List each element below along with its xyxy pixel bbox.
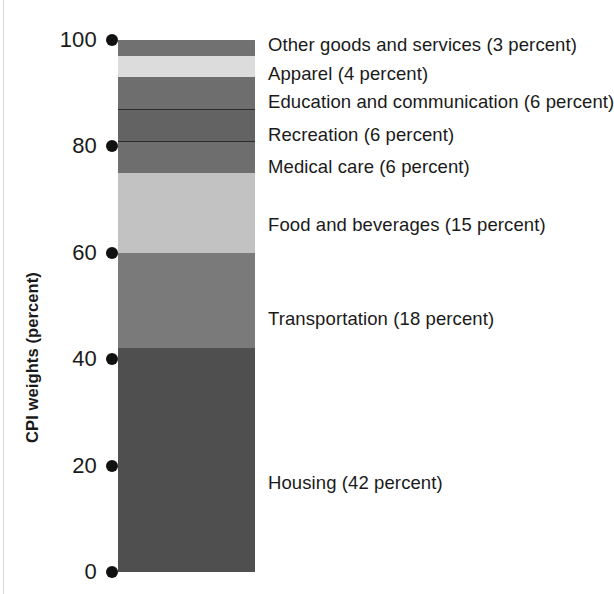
bar-segment-medical-care (118, 141, 255, 173)
y-axis-tick-dot-marker (106, 247, 118, 259)
bar-segment-recreation (118, 109, 255, 141)
y-axis-tick-dot-marker (106, 34, 118, 46)
stacked-bar (118, 40, 255, 572)
category-label: Medical care (6 percent) (268, 158, 470, 177)
y-axis-tick-label: 20 (72, 455, 97, 477)
bar-segment-other-goods-and-services (118, 40, 255, 56)
category-label: Housing (42 percent) (268, 474, 443, 493)
bar-segment-apparel (118, 56, 255, 77)
category-label: Transportation (18 percent) (268, 310, 494, 329)
bar-segment-housing (118, 348, 255, 571)
y-axis-tick-label: 60 (72, 242, 97, 264)
bar-segment-food-and-beverages (118, 173, 255, 253)
page-edge-rule (3, 0, 4, 594)
y-axis-tick-dot-marker (106, 140, 118, 152)
y-axis-tick-label: 80 (72, 135, 97, 157)
bar-segment-education-and-communication (118, 77, 255, 109)
y-axis-title: CPI weights (percent) (23, 238, 42, 478)
bar-segment-transportation (118, 253, 255, 349)
y-axis-tick-dot-marker (106, 353, 118, 365)
category-label: Education and communication (6 percent) (268, 93, 614, 112)
category-label: Other goods and services (3 percent) (268, 36, 577, 55)
y-axis-tick-label: 100 (60, 29, 97, 51)
y-axis-tick-label: 40 (72, 348, 97, 370)
y-axis-tick-label: 0 (85, 561, 97, 583)
category-label: Recreation (6 percent) (268, 126, 454, 145)
category-label: Apparel (4 percent) (268, 65, 428, 84)
y-axis-tick-dot-marker (106, 566, 118, 578)
category-label: Food and beverages (15 percent) (268, 216, 546, 235)
y-axis-tick-dot-marker (106, 460, 118, 472)
